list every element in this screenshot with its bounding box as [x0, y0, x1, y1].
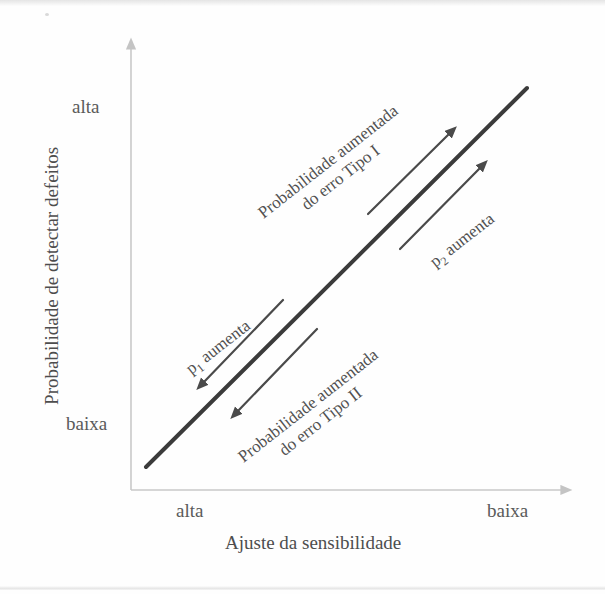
x-axis-title: Ajuste da sensibilidade: [225, 532, 401, 554]
x-axis-tick-baixa: baixa: [487, 500, 528, 522]
y-axis-title: Probabilidade de detectar defeitos: [41, 131, 63, 421]
x-axis-tick-alta: alta: [176, 500, 203, 522]
y-axis-tick-alta: alta: [72, 96, 99, 118]
figure-container: alta baixa alta baixa Ajuste da sensibil…: [0, 0, 605, 594]
y-axis-tick-baixa: baixa: [66, 413, 107, 435]
